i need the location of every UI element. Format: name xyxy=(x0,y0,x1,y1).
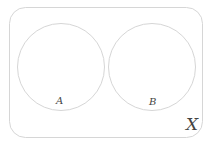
universe-label-x: X xyxy=(184,114,199,134)
set-a-label: A xyxy=(55,95,63,106)
set-b-label: B xyxy=(148,96,156,107)
venn-diagram: A B X xyxy=(0,0,217,145)
universe-set-x xyxy=(10,8,203,138)
